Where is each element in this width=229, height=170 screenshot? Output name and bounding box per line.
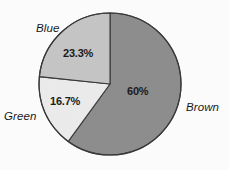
pie-chart-canvas: [0, 0, 229, 170]
slice-label-brown: Brown: [186, 101, 219, 113]
slice-label-green: Green: [4, 110, 36, 122]
slice-value-blue: 23.3%: [63, 47, 93, 59]
slice-value-brown: 60%: [127, 85, 148, 97]
slice-value-green: 16.7%: [50, 95, 80, 107]
pie-chart-figure: 60% 23.3% 16.7% Brown Blue Green: [0, 0, 229, 170]
slice-label-blue: Blue: [36, 22, 59, 34]
